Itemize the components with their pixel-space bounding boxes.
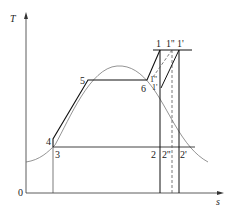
origin-label: 0 [18, 187, 23, 198]
label-1d: 1' [152, 83, 158, 92]
label-1pp: 1'' [166, 38, 175, 49]
x-axis-arrow-icon [217, 191, 224, 195]
label-1p: 1' [177, 38, 184, 49]
label-5: 5 [80, 75, 85, 86]
cycle-path-main [53, 50, 160, 147]
line-1d-1p [161, 50, 179, 88]
label-2p: 2' [180, 149, 187, 160]
label-2: 2 [151, 149, 156, 160]
x-axis-label: s [216, 196, 220, 207]
y-axis-label: T [10, 13, 17, 24]
label-1: 1 [156, 38, 161, 49]
line-1dd-1pp-dashed [153, 50, 172, 77]
ts-diagram: T s 0 1 1'' 1' 2 2'' 2' 3 4 5 6 1'' 1' [0, 0, 230, 215]
label-2pp: 2'' [162, 149, 171, 160]
y-axis-arrow-icon [24, 12, 28, 19]
label-4: 4 [46, 136, 51, 147]
label-6: 6 [141, 83, 146, 94]
label-3: 3 [55, 149, 60, 160]
